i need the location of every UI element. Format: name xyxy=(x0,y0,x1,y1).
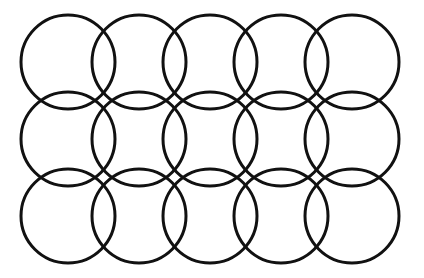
circle-grid-diagram xyxy=(0,0,424,278)
background xyxy=(0,0,424,278)
